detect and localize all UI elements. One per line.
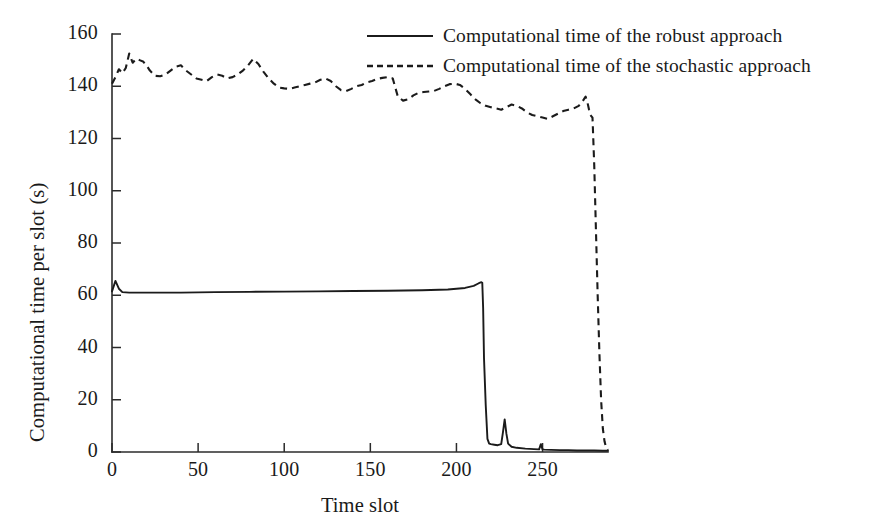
- y-tick-label: 80: [0, 230, 98, 253]
- y-tick-label: 40: [0, 335, 98, 358]
- series-robust-line: [112, 281, 608, 451]
- plot-canvas: [0, 0, 893, 530]
- series-stochastic-line: [112, 54, 608, 450]
- x-tick-label: 50: [158, 458, 238, 481]
- x-tick-label: 100: [244, 458, 324, 481]
- x-tick-marks: [112, 443, 543, 452]
- x-tick-label: 250: [503, 458, 583, 481]
- chart-figure: 020406080100120140160 050100150200250 Co…: [0, 0, 893, 530]
- legend-dashed-line-icon: [366, 59, 434, 73]
- y-tick-label: 140: [0, 73, 98, 96]
- x-tick-label: 200: [416, 458, 496, 481]
- y-tick-label: 20: [0, 387, 98, 410]
- legend-item: Computational time of the robust approac…: [366, 23, 811, 49]
- legend-item: Computational time of the stochastic app…: [366, 53, 811, 79]
- x-axis-label: Time slot: [0, 494, 720, 517]
- y-tick-label: 100: [0, 178, 98, 201]
- x-tick-label: 0: [72, 458, 152, 481]
- legend-label: Computational time of the robust approac…: [443, 25, 782, 47]
- legend-solid-line-icon: [366, 29, 434, 43]
- legend-label: Computational time of the stochastic app…: [443, 55, 811, 77]
- x-tick-label: 150: [330, 458, 410, 481]
- axes: [112, 34, 608, 452]
- chart-legend: Computational time of the robust approac…: [366, 23, 811, 79]
- y-tick-marks: [112, 34, 121, 452]
- y-tick-label: 60: [0, 282, 98, 305]
- y-tick-label: 160: [0, 21, 98, 44]
- y-tick-label: 120: [0, 126, 98, 149]
- y-axis-label: Computational time per slot (s): [26, 183, 49, 442]
